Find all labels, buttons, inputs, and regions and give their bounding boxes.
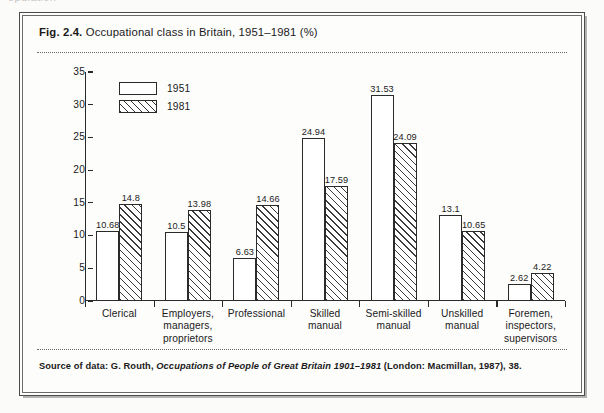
- category-label-line: managers,: [154, 320, 223, 332]
- bar-1951-1: 10.5: [165, 232, 188, 301]
- bar-value-label: 17.59: [325, 175, 349, 185]
- y-axis-tick-mark: [88, 235, 93, 236]
- source-note: Source of data: G. Routh, Occupations of…: [39, 361, 522, 371]
- category-label-line: manual: [359, 320, 428, 332]
- bar-value-label: 13.1: [441, 204, 459, 214]
- y-axis-tick-mark: [88, 104, 93, 105]
- bar-value-label: 14.66: [256, 194, 280, 204]
- y-axis-tick-mark: [88, 170, 93, 171]
- bar-value-label: 6.63: [236, 247, 254, 257]
- y-axis-tick-label: 20: [73, 165, 85, 175]
- bar-1981-4: 24.09: [394, 143, 417, 301]
- bar-value-label: 10.68: [96, 220, 120, 230]
- plot-area: 05101520253035 10.6814.810.513.986.6314.…: [85, 72, 565, 301]
- source-title: Occupations of People of Great Britain 1…: [156, 361, 381, 371]
- figure-inner: Fig. 2.4. Occupational class in Britain,…: [23, 16, 581, 392]
- bar-1981-1: 13.98: [188, 210, 211, 301]
- bar-1981-5: 10.65: [462, 231, 485, 301]
- category-label-line: manual: [428, 320, 497, 332]
- y-axis-tick-label: 25: [73, 132, 85, 142]
- group-separator-tick: [222, 301, 223, 307]
- category-label-line: manual: [291, 320, 360, 332]
- category-label-5: Unskilledmanual: [428, 308, 497, 333]
- y-axis-tick-label: 35: [73, 66, 85, 76]
- group-separator-tick: [496, 301, 497, 307]
- group-separator-tick: [291, 301, 292, 307]
- category-label-line: Semi-skilled: [359, 308, 428, 320]
- category-label-line: inspectors,: [496, 320, 565, 332]
- chart-area: 1951 1981 05101520253035 10.6814.810.513…: [23, 56, 583, 346]
- bar-1951-2: 6.63: [233, 258, 256, 301]
- group-separator-tick: [359, 301, 360, 307]
- y-axis-tick-label: 30: [73, 99, 85, 109]
- group-separator-tick: [565, 301, 566, 307]
- figure-box: Fig. 2.4. Occupational class in Britain,…: [19, 12, 585, 396]
- category-label-6: Foremen,inspectors,supervisors: [496, 308, 565, 345]
- category-label-3: Skilledmanual: [291, 308, 360, 333]
- figure-caption: Fig. 2.4. Occupational class in Britain,…: [39, 26, 318, 38]
- bar-value-label: 31.53: [370, 84, 394, 94]
- bar-value-label: 13.98: [188, 199, 212, 209]
- category-label-line: Unskilled: [428, 308, 497, 320]
- source-divider: [37, 349, 567, 350]
- bar-1981-0: 14.8: [119, 204, 142, 301]
- y-axis-tick-mark: [88, 202, 93, 203]
- bar-1951-0: 10.68: [96, 231, 119, 301]
- y-axis-tick-label: 15: [73, 197, 85, 207]
- bar-1951-6: 2.62: [508, 284, 531, 301]
- page-background: opulation Fig. 2.4. Occupational class i…: [0, 0, 604, 413]
- category-label-1: Employers,managers,proprietors: [154, 308, 223, 345]
- y-axis-tick-label: 5: [79, 263, 85, 273]
- category-label-2: Professional: [222, 308, 291, 320]
- category-label-0: Clerical: [85, 308, 154, 320]
- y-axis-tick-mark: [88, 137, 93, 138]
- source-suffix: (London: Macmillan, 1987), 38.: [381, 361, 522, 371]
- bar-value-label: 2.62: [510, 273, 528, 283]
- figure-number: Fig. 2.4.: [39, 26, 82, 38]
- bar-1981-2: 14.66: [256, 205, 279, 301]
- group-separator-tick: [85, 301, 86, 307]
- bar-1951-4: 31.53: [371, 95, 394, 301]
- bar-1981-3: 17.59: [325, 186, 348, 301]
- category-label-line: Foremen,: [496, 308, 565, 320]
- category-label-line: supervisors: [496, 333, 565, 345]
- source-prefix: Source of data: G. Routh,: [39, 361, 156, 371]
- bar-1981-6: 4.22: [531, 273, 554, 301]
- group-separator-tick: [154, 301, 155, 307]
- bar-value-label: 10.5: [167, 221, 185, 231]
- category-label-4: Semi-skilledmanual: [359, 308, 428, 333]
- bar-value-label: 14.8: [122, 193, 140, 203]
- y-axis-tick-label: 10: [73, 230, 85, 240]
- bar-1951-5: 13.1: [439, 215, 462, 301]
- cut-off-text-above-figure: opulation: [8, 0, 56, 3]
- bar-value-label: 24.94: [302, 127, 326, 137]
- category-label-line: Clerical: [85, 308, 154, 320]
- category-label-line: Professional: [222, 308, 291, 320]
- caption-divider-top: [37, 52, 567, 53]
- y-axis-tick-mark: [88, 71, 93, 72]
- figure-caption-text: Occupational class in Britain, 1951–1981…: [86, 26, 318, 38]
- category-label-line: Employers,: [154, 308, 223, 320]
- y-axis-tick-mark: [88, 268, 93, 269]
- y-axis-tick-mark: [88, 300, 93, 301]
- bar-1951-3: 24.94: [302, 138, 325, 301]
- bar-value-label: 10.65: [462, 220, 486, 230]
- bar-value-label: 4.22: [533, 262, 551, 272]
- bar-value-label: 24.09: [393, 132, 417, 142]
- category-label-line: Skilled: [291, 308, 360, 320]
- category-label-line: proprietors: [154, 333, 223, 345]
- group-separator-tick: [428, 301, 429, 307]
